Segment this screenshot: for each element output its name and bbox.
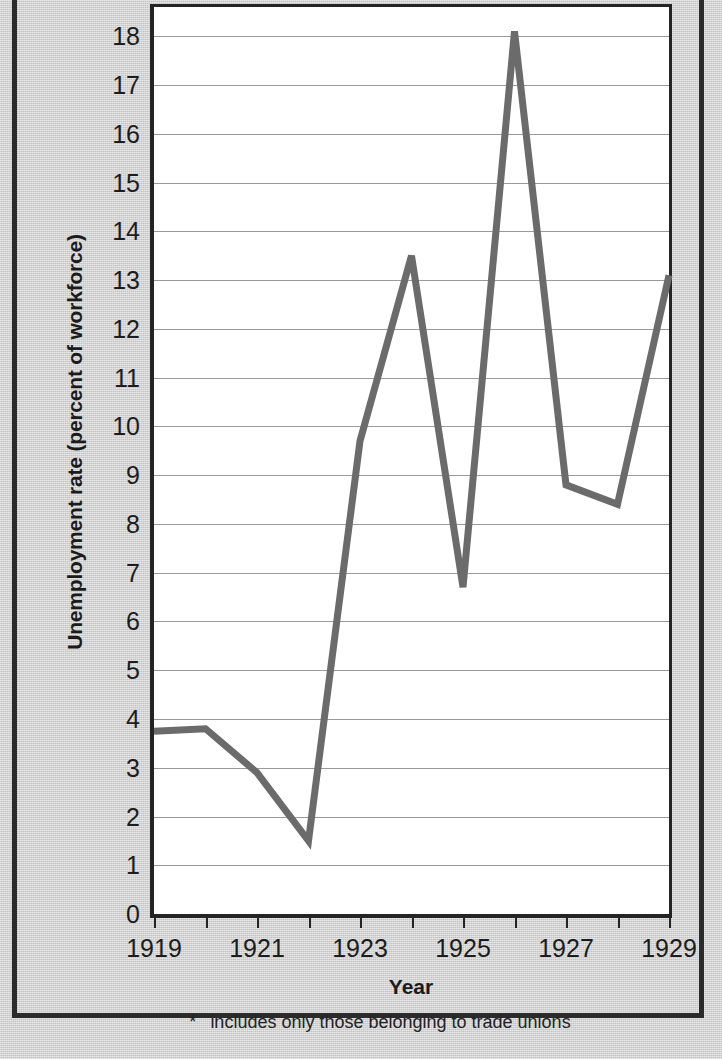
series-polyline [154, 31, 669, 840]
x-tick-mark-1925 [463, 916, 465, 928]
y-tick-14: 14 [80, 219, 140, 244]
x-tick-1927: 1927 [521, 934, 611, 963]
x-tick-1923: 1923 [315, 934, 405, 963]
y-tick-10: 10 [80, 414, 140, 439]
plot-area [150, 4, 672, 918]
x-axis-label: Year [150, 975, 672, 999]
unemployment-rate-line [154, 7, 669, 914]
chart-footnote: *includes only those belonging to trade … [80, 1012, 680, 1033]
x-tick-mark-1923 [360, 916, 362, 928]
plot-inner [154, 7, 669, 914]
x-tick-1919: 1919 [109, 934, 199, 963]
y-tick-9: 9 [80, 463, 140, 488]
x-tick-mark-1921 [257, 916, 259, 928]
y-tick-2: 2 [80, 805, 140, 830]
y-tick-3: 3 [80, 756, 140, 781]
x-tick-mark-1920 [206, 916, 208, 928]
footnote-marker: * [189, 1012, 196, 1032]
y-tick-11: 11 [80, 366, 140, 391]
x-tick-1929: 1929 [624, 934, 714, 963]
x-axis-tick-labels: 191919211923192519271929 [150, 928, 672, 968]
y-tick-16: 16 [80, 122, 140, 147]
y-tick-18: 18 [80, 24, 140, 49]
x-tick-mark-1929 [669, 916, 671, 928]
x-tick-1921: 1921 [212, 934, 302, 963]
x-tick-mark-1928 [618, 916, 620, 928]
y-tick-6: 6 [80, 609, 140, 634]
y-tick-12: 12 [80, 317, 140, 342]
y-axis-tick-labels: 0123456789101112131415161718 [78, 4, 140, 918]
x-tick-mark-1924 [412, 916, 414, 928]
y-tick-1: 1 [80, 853, 140, 878]
y-tick-0: 0 [80, 902, 140, 927]
y-tick-5: 5 [80, 658, 140, 683]
y-tick-15: 15 [80, 171, 140, 196]
line-chart: Unemployment rate (percent of workforce)… [0, 0, 722, 1059]
x-tick-mark-1926 [515, 916, 517, 928]
x-tick-mark-1922 [309, 916, 311, 928]
footnote-text: includes only those belonging to trade u… [210, 1012, 570, 1032]
y-tick-17: 17 [80, 73, 140, 98]
y-tick-4: 4 [80, 707, 140, 732]
figure-page: Unemployment rate (percent of workforce)… [0, 0, 722, 1059]
y-tick-7: 7 [80, 561, 140, 586]
x-tick-1925: 1925 [418, 934, 508, 963]
y-tick-8: 8 [80, 512, 140, 537]
y-tick-13: 13 [80, 268, 140, 293]
x-tick-mark-1927 [566, 916, 568, 928]
x-tick-mark-1919 [154, 916, 156, 928]
